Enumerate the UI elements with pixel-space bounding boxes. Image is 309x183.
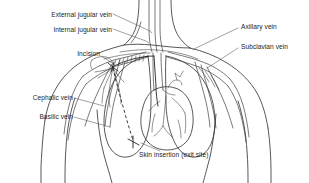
internal-jugular-vein-vessel (149, 0, 163, 52)
exit-site-marker-icon (128, 136, 139, 148)
label-skin-insertion-exit-site: Skin insertion (exit site) (139, 152, 259, 159)
anatomy-diagram: External jugular vein Internal jugular v… (0, 0, 309, 183)
heart-outline (141, 71, 193, 150)
right-arm-veins (167, 52, 249, 142)
label-internal-jugular-vein: Internal jugular vein (18, 27, 112, 34)
leader-external-jugular (113, 14, 152, 33)
leader-cephalic (74, 98, 104, 106)
neck-outline (124, 0, 190, 48)
incision-site-vessels (95, 68, 124, 107)
label-incision: Incision (44, 51, 100, 58)
leader-basilic (74, 117, 110, 127)
leader-subclavian (207, 48, 238, 68)
label-basilic-vein: Basilic vein (5, 114, 73, 121)
label-cephalic-vein: Cephalic vein (5, 95, 73, 102)
label-subclavian-vein: Subclavian vein (241, 44, 307, 51)
leader-internal-jugular (113, 29, 149, 43)
label-external-jugular-vein: External jugular vein (18, 12, 112, 19)
label-axillary-vein: Axillary vein (241, 24, 307, 31)
incision-skin-loop (91, 57, 114, 69)
external-jugular-vein-vessel (131, 22, 141, 43)
leader-axillary (193, 28, 238, 50)
